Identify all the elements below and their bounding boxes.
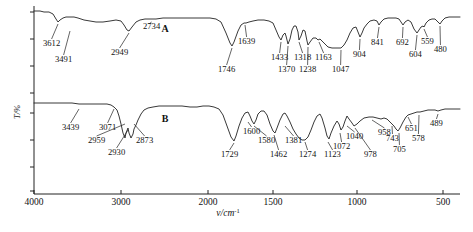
peak-label: 978 bbox=[364, 149, 377, 159]
peak-label: 480 bbox=[434, 44, 447, 54]
peak-label: 2873 bbox=[136, 135, 153, 145]
x-axis-tick-labels: 40003000200015001000500 bbox=[25, 197, 451, 207]
peak-label: 1433 bbox=[271, 52, 288, 62]
peak-label: 904 bbox=[353, 49, 367, 59]
peak-label: 1072 bbox=[333, 141, 350, 151]
peak-label: 1381 bbox=[285, 135, 302, 145]
peak-label: 1370 bbox=[278, 64, 295, 74]
peak-label: 3491 bbox=[55, 54, 72, 64]
x-axis-tick-label: 3000 bbox=[112, 197, 131, 207]
peak-label: 3612 bbox=[43, 38, 60, 48]
peak-label: 559 bbox=[421, 36, 434, 46]
peak-label: 1274 bbox=[299, 149, 317, 159]
peak-label: 1746 bbox=[218, 64, 236, 74]
peak-label: 578 bbox=[412, 133, 425, 143]
x-axis-label-superscript: -1 bbox=[234, 207, 239, 214]
peak-label: 1729 bbox=[221, 149, 238, 159]
peak-leader-line bbox=[415, 35, 417, 50]
peak-label: 692 bbox=[396, 37, 409, 47]
x-axis-tick-label: 1000 bbox=[348, 197, 367, 207]
peak-leader-line bbox=[52, 24, 58, 39]
peak-label: 1639 bbox=[238, 36, 255, 46]
y-axis-label: T/% bbox=[12, 105, 22, 119]
peak-label: 1238 bbox=[299, 64, 316, 74]
peak-annotations-a: 3612349129492734174616391433137013181238… bbox=[43, 21, 447, 74]
peak-label: 489 bbox=[430, 118, 443, 128]
peak-leader-line bbox=[227, 48, 232, 65]
peak-label: 2959 bbox=[88, 135, 105, 145]
spectra-canvas: 40003000200015001000500 T/% ν/cm-1 A B 3… bbox=[0, 0, 473, 232]
x-axis-tick-label: 1500 bbox=[264, 197, 283, 207]
peak-leader-line bbox=[117, 130, 128, 148]
x-axis-tick-label: 500 bbox=[436, 197, 451, 207]
peak-leader-line bbox=[71, 109, 79, 123]
x-axis-label: ν/cm-1 bbox=[216, 207, 239, 219]
peak-label: 604 bbox=[409, 49, 423, 59]
peak-label: 1580 bbox=[258, 135, 275, 145]
y-axis-ticks bbox=[30, 12, 34, 191]
peak-leader-line bbox=[108, 109, 114, 123]
series-label-b: B bbox=[162, 113, 169, 124]
series-label-a: A bbox=[161, 23, 169, 34]
peak-label: 2949 bbox=[111, 47, 128, 57]
peak-label: 1163 bbox=[315, 52, 332, 62]
peak-label: 2930 bbox=[108, 147, 125, 157]
peak-leader-line bbox=[64, 31, 70, 55]
peak-label: 841 bbox=[371, 37, 384, 47]
peak-label: 705 bbox=[393, 144, 406, 154]
x-axis-label-main: ν/cm bbox=[216, 208, 234, 218]
x-axis-ticks bbox=[34, 190, 443, 194]
peak-label: 1318 bbox=[294, 52, 311, 62]
peak-label: 3439 bbox=[62, 122, 79, 132]
peak-label: 3071 bbox=[99, 122, 116, 132]
peak-label: 2734 bbox=[143, 21, 161, 31]
peak-leader-line bbox=[418, 115, 419, 134]
peak-label: 1462 bbox=[270, 149, 287, 159]
x-axis-tick-label: 4000 bbox=[25, 197, 44, 207]
peak-label: 743 bbox=[386, 133, 399, 143]
peak-leader-line bbox=[120, 33, 129, 48]
peak-label: 1047 bbox=[332, 64, 350, 74]
x-axis-tick-label: 2000 bbox=[199, 197, 218, 207]
ir-spectra-figure: 40003000200015001000500 T/% ν/cm-1 A B 3… bbox=[0, 0, 473, 232]
peak-label: 651 bbox=[405, 123, 418, 133]
